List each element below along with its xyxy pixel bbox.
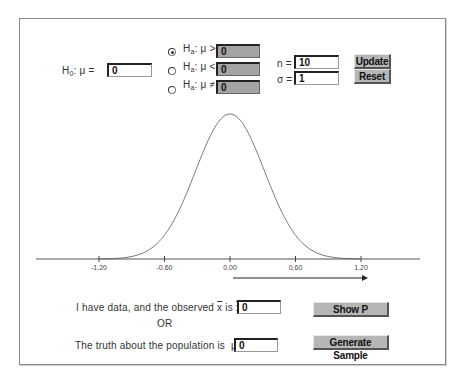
observed-xbar-input[interactable] bbox=[237, 300, 281, 314]
arrow-head-icon bbox=[362, 275, 368, 281]
tick-label: 0.00 bbox=[223, 264, 237, 271]
truth-mu-input[interactable] bbox=[234, 338, 278, 352]
show-p-button[interactable]: Show P bbox=[313, 302, 389, 317]
axis-ticks: -1.20-0.600.000.601.20 bbox=[91, 256, 368, 271]
tick-label: -1.20 bbox=[91, 264, 107, 271]
observed-label: I have data, and the observed x is x = bbox=[76, 302, 250, 313]
generate-sample-button[interactable]: Generate Sample bbox=[313, 335, 389, 350]
tick-label: 1.20 bbox=[354, 264, 368, 271]
distribution-plot: -1.20-0.600.000.601.20 bbox=[0, 0, 460, 376]
tick-label: 0.60 bbox=[289, 264, 303, 271]
truth-label: The truth about the population is μ = bbox=[75, 340, 246, 351]
or-label: OR bbox=[157, 318, 172, 329]
tick-label: -0.60 bbox=[157, 264, 173, 271]
normal-curve bbox=[100, 114, 360, 259]
